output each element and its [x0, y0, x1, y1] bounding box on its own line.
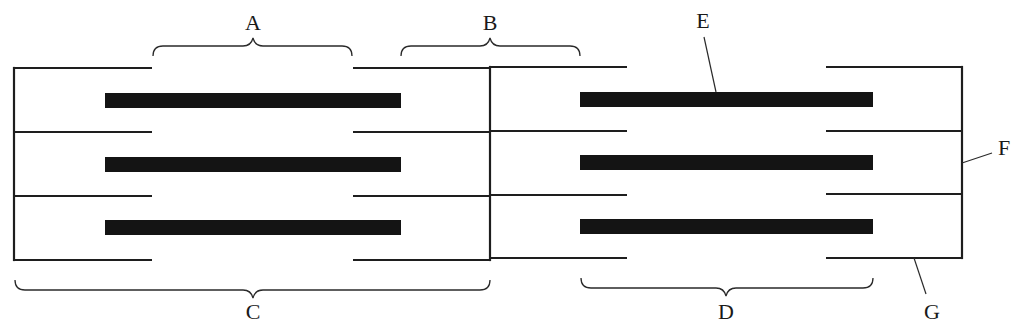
leader-g	[914, 258, 926, 294]
label-e: E	[696, 8, 709, 33]
thick-filament	[105, 157, 401, 172]
right-sarcomere	[490, 67, 962, 258]
brace-c	[15, 280, 490, 298]
thick-filament	[105, 93, 401, 108]
leader-f	[962, 153, 992, 163]
leader-e	[704, 37, 716, 92]
thick-filament	[580, 155, 873, 170]
label-f: F	[998, 135, 1010, 160]
sarcomere-diagram: A B C D E F G	[0, 0, 1015, 328]
brace-d	[581, 278, 873, 296]
brace-a	[153, 38, 352, 56]
thick-filament	[105, 220, 401, 235]
label-a: A	[245, 10, 261, 35]
label-c: C	[246, 299, 261, 324]
thick-filament	[580, 219, 873, 234]
thick-filament	[580, 92, 873, 107]
label-g: G	[924, 299, 940, 324]
left-sarcomere	[14, 68, 490, 260]
label-b: B	[483, 10, 498, 35]
label-d: D	[718, 299, 734, 324]
brace-b	[401, 38, 580, 56]
